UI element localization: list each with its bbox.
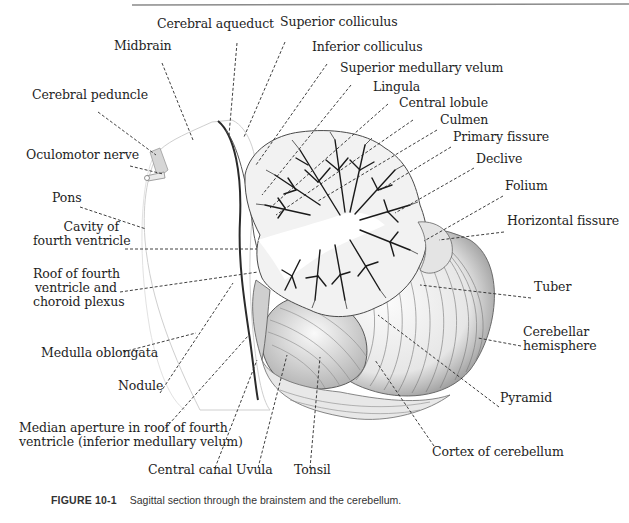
label-central-canal: Central canal xyxy=(148,463,232,477)
label-pyramid: Pyramid xyxy=(500,391,552,405)
figure-number: FIGURE 10-1 xyxy=(51,494,117,506)
leader-line-folium xyxy=(424,196,503,241)
label-lingula: Lingula xyxy=(373,80,420,94)
label-midbrain: Midbrain xyxy=(114,39,171,53)
figure-caption: FIGURE 10-1 Sagittal section through the… xyxy=(51,494,401,506)
label-medulla-oblongata: Medulla oblongata xyxy=(41,346,158,360)
leader-line-midbrain xyxy=(162,63,193,140)
leader-line-superior-colliculus xyxy=(244,42,285,137)
label-superior-medullary-velum: Superior medullary velum xyxy=(340,61,503,75)
label-cortex-of-cerebellum: Cortex of cerebellum xyxy=(432,445,564,459)
label-pons: Pons xyxy=(52,191,82,205)
figure-canvas: Cerebral aqueductSuperior colliculusMidb… xyxy=(0,0,629,523)
label-line: Median aperture in roof of fourth xyxy=(19,421,239,435)
label-nodule: Nodule xyxy=(118,379,163,393)
label-uvula: Uvula xyxy=(236,463,273,477)
figure-caption-text: Sagittal section through the brainstem a… xyxy=(130,494,401,506)
label-roof-fourth-ventricle: Roof of fourthventricle andchoroid plexu… xyxy=(33,267,117,309)
label-line: Roof of fourth xyxy=(33,267,117,281)
label-cerebral-aqueduct: Cerebral aqueduct xyxy=(157,17,274,31)
label-oculomotor-nerve: Oculomotor nerve xyxy=(26,148,139,162)
label-declive: Declive xyxy=(476,152,522,166)
label-culmen: Culmen xyxy=(440,113,488,127)
label-median-aperture: Median aperture in roof of fourthventric… xyxy=(19,421,239,449)
label-line: ventricle (inferior medullary velum) xyxy=(19,435,239,449)
label-cavity-fourth-ventricle: Cavity offourth ventricle xyxy=(33,220,119,248)
label-folium: Folium xyxy=(505,179,548,193)
vermis-section xyxy=(245,131,427,317)
label-inferior-colliculus: Inferior colliculus xyxy=(312,40,423,54)
label-line: fourth ventricle xyxy=(33,234,119,248)
label-line: hemisphere xyxy=(523,339,603,353)
label-superior-colliculus: Superior colliculus xyxy=(280,15,398,29)
label-line: ventricle and xyxy=(33,281,117,295)
label-cerebral-peduncle: Cerebral peduncle xyxy=(32,88,148,102)
label-line: Cavity of xyxy=(33,220,119,234)
label-tonsil: Tonsil xyxy=(294,463,331,477)
label-tuber: Tuber xyxy=(534,280,571,294)
label-central-lobule: Central lobule xyxy=(399,96,488,110)
label-cerebellar-hemisphere: Cerebellarhemisphere xyxy=(523,325,603,353)
label-primary-fissure: Primary fissure xyxy=(453,130,549,144)
top-rule xyxy=(132,4,629,5)
label-horizontal-fissure: Horizontal fissure xyxy=(507,214,619,228)
label-line: choroid plexus xyxy=(33,295,117,309)
label-line: Cerebellar xyxy=(523,325,603,339)
